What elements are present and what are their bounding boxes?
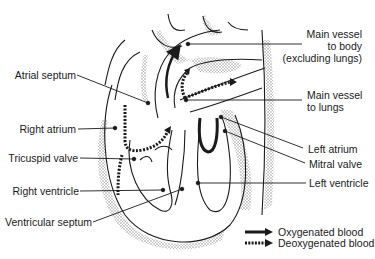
- deoxygenated-arrow-head-rv: [164, 126, 171, 134]
- label-main-vessel-body-line3: (excluding lungs): [270, 52, 362, 64]
- label-right-atrium: Right atrium: [2, 123, 76, 135]
- dotted-arrow-icon: [244, 238, 274, 248]
- deoxygenated-flow: [118, 72, 230, 195]
- label-main-vessel-body-line1: Main vessel: [290, 28, 362, 40]
- legend-item-deoxygenated: Deoxygenated blood: [244, 237, 375, 248]
- legend-label-deoxygenated: Deoxygenated blood: [278, 237, 374, 249]
- label-left-ventricle: Left ventricle: [309, 177, 369, 189]
- label-mitral-valve: Mitral valve: [309, 158, 362, 170]
- label-left-atrium: Left atrium: [308, 143, 358, 155]
- solid-arrow-icon: [244, 227, 274, 237]
- label-tricuspid-valve: Tricuspid valve: [2, 152, 78, 164]
- label-right-ventricle: Right ventricle: [2, 185, 79, 197]
- label-atrial-septum: Atrial septum: [2, 69, 76, 81]
- left-heart-flow: [199, 118, 217, 152]
- legend-item-oxygenated: Oxygenated blood: [244, 226, 375, 237]
- label-main-vessel-body-line2: to body: [290, 40, 362, 52]
- legend: Oxygenated blood Deoxygenated blood: [244, 226, 375, 248]
- label-main-vessel-lungs-line2: to lungs: [307, 101, 344, 113]
- label-main-vessel-lungs-line1: Main vessel: [307, 89, 362, 101]
- label-ventricular-septum: Ventricular septum: [2, 216, 92, 228]
